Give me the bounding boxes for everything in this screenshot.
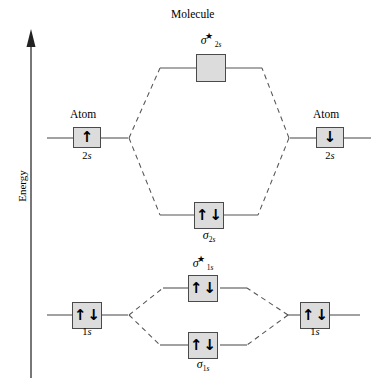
orbital-box-atom-1s-right[interactable] xyxy=(300,302,330,329)
orbital-caption-atom-2s-left: 2s xyxy=(68,150,106,161)
orbital-label-sigma-1s: σ1s xyxy=(178,357,228,373)
orbital-caption-atom-1s-left: 1s xyxy=(68,326,106,337)
orbital-caption-atom-1s-right: 1s xyxy=(296,326,334,337)
atom-heading-left: Atom xyxy=(70,108,96,120)
electron-arrow-down xyxy=(204,281,217,296)
orbital-caption-atom-2s-right: 2s xyxy=(311,150,349,161)
correlation-lines-2s xyxy=(129,68,289,215)
electron-arrow-up xyxy=(190,281,203,296)
orbital-box-sigma-2s-star[interactable] xyxy=(196,54,226,82)
electron-arrow-up xyxy=(190,338,203,353)
electron-arrow-up xyxy=(196,208,209,223)
orbital-box-sigma-2s[interactable] xyxy=(194,202,224,229)
atom-heading-right: Atom xyxy=(313,108,339,120)
electron-arrow-down xyxy=(204,338,217,353)
electron-arrow-down xyxy=(210,208,223,223)
orbital-box-atom-2s-left[interactable] xyxy=(73,127,101,148)
orbital-box-sigma-1s-star[interactable] xyxy=(188,275,218,302)
electron-arrow-down xyxy=(324,130,337,145)
energy-axis-label: Energy xyxy=(16,158,28,214)
electron-arrow-up xyxy=(81,130,94,145)
electron-arrow-up xyxy=(302,308,315,323)
orbital-label-sigma-1s-star: σ★1s xyxy=(178,254,228,272)
orbital-box-sigma-1s[interactable] xyxy=(188,332,218,359)
mo-energy-diagram: Energy Molecule Atom Atom 2s 2s σ★2s σ2s… xyxy=(0,0,379,392)
electron-arrow-up xyxy=(74,308,87,323)
electron-arrow-down xyxy=(88,308,101,323)
electron-arrow-down xyxy=(316,308,329,323)
orbital-box-atom-1s-left[interactable] xyxy=(72,302,102,329)
molecule-heading: Molecule xyxy=(171,8,214,20)
orbital-box-atom-2s-right[interactable] xyxy=(316,127,344,148)
orbital-label-sigma-2s-star: σ★2s xyxy=(186,31,236,49)
orbital-label-sigma-2s: σ2s xyxy=(184,228,234,244)
